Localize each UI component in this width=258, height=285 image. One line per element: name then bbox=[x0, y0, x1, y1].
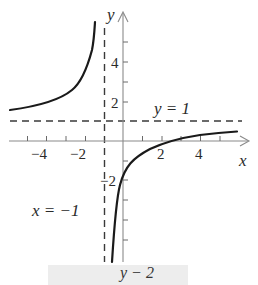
x-tick-label-neg2: −2 bbox=[70, 146, 86, 162]
v-asymptote-label: x = −1 bbox=[31, 201, 80, 220]
y-tick-label-neg2: −2 bbox=[100, 173, 116, 189]
caption-background bbox=[48, 265, 188, 285]
x-tick-label-neg4: −4 bbox=[31, 146, 47, 162]
x-axis-label: x bbox=[238, 151, 247, 170]
caption-fragment: y − 2 bbox=[120, 266, 154, 280]
x-tick-label-4: 4 bbox=[195, 146, 203, 162]
h-asymptote-label: y = 1 bbox=[152, 99, 190, 118]
y-tick-label-4: 4 bbox=[111, 55, 119, 71]
y-tick-label-2: 2 bbox=[111, 95, 119, 111]
right-branch-curve bbox=[112, 132, 237, 263]
y-axis-label: y bbox=[105, 5, 115, 24]
function-graph: y x −4 −2 2 4 4 2 −2 y = 1 x = −1 bbox=[0, 0, 258, 285]
left-branch-curve bbox=[10, 22, 95, 110]
x-tick-label-2: 2 bbox=[157, 146, 165, 162]
